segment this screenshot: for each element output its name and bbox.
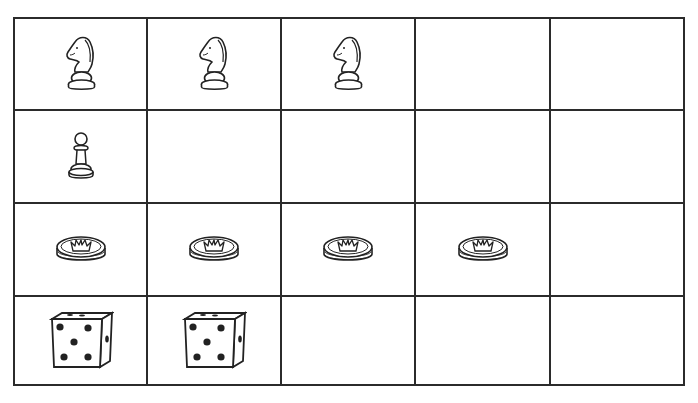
grid-cell-r3-c5 — [551, 204, 683, 297]
knight-icon — [61, 34, 101, 94]
grid-cell-r1-c5 — [551, 19, 683, 111]
die-5-icon — [48, 311, 114, 371]
grid-cell-r1-c4 — [416, 19, 551, 111]
grid-cell-r1-c1 — [15, 19, 148, 111]
crown-token-icon — [187, 232, 241, 268]
knight-icon — [194, 34, 234, 94]
grid-cell-r2-c4 — [416, 111, 551, 204]
game-grid — [13, 17, 685, 386]
grid-cell-r4-c5 — [551, 297, 683, 384]
grid-cell-r4-c4 — [416, 297, 551, 384]
grid-cell-r3-c2 — [148, 204, 282, 297]
grid-cell-r3-c1 — [15, 204, 148, 297]
grid-cell-r4-c2 — [148, 297, 282, 384]
pawn-icon — [65, 131, 97, 183]
grid-cell-r2-c2 — [148, 111, 282, 204]
grid-cell-r3-c3 — [282, 204, 416, 297]
grid-cell-r2-c1 — [15, 111, 148, 204]
grid-cell-r1-c2 — [148, 19, 282, 111]
grid-cell-r4-c1 — [15, 297, 148, 384]
grid-cell-r4-c3 — [282, 297, 416, 384]
crown-token-icon — [54, 232, 108, 268]
die-5-icon — [181, 311, 247, 371]
grid-cell-r2-c3 — [282, 111, 416, 204]
grid-cell-r3-c4 — [416, 204, 551, 297]
crown-token-icon — [321, 232, 375, 268]
grid-cell-r1-c3 — [282, 19, 416, 111]
grid-cell-r2-c5 — [551, 111, 683, 204]
crown-token-icon — [456, 232, 510, 268]
knight-icon — [328, 34, 368, 94]
